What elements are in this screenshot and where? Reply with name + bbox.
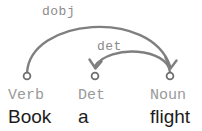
pos-tag-det: Det xyxy=(78,87,105,104)
word-token-book: Book xyxy=(8,106,52,127)
word-node-verb xyxy=(24,73,31,80)
pos-tag-noun: Noun xyxy=(150,87,186,104)
word-node-det xyxy=(92,73,99,80)
arc-label-dobj: dobj xyxy=(42,4,75,19)
word-node-noun xyxy=(167,73,174,80)
pos-tag-verb: Verb xyxy=(8,87,44,104)
dependency-arc-det xyxy=(95,52,170,72)
word-token-a: a xyxy=(78,106,89,127)
parse-tree-canvas: dobj det Verb Det Noun Book a flight xyxy=(0,0,202,131)
dependency-parse-diagram: dobj det Verb Det Noun Book a flight xyxy=(0,0,202,131)
word-token-flight: flight xyxy=(150,106,191,127)
arc-label-det: det xyxy=(97,39,122,54)
